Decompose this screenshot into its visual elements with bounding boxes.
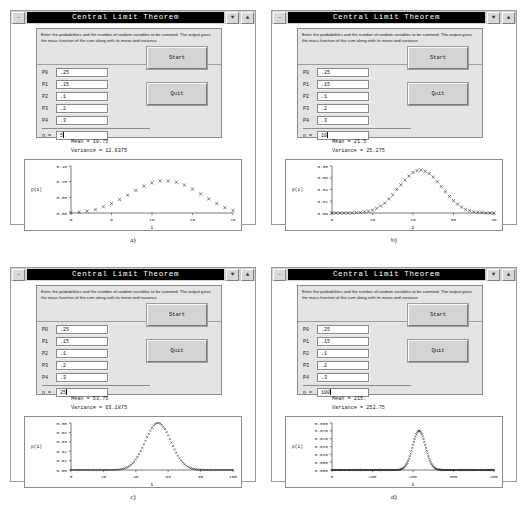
quit-button[interactable]: Quit bbox=[147, 340, 207, 362]
prob-label-p1: P1 bbox=[303, 339, 317, 345]
svg-text:p(i): p(i) bbox=[31, 444, 42, 449]
app-window: –Central Limit Theorem▼▲Enter the probab… bbox=[10, 267, 256, 482]
prob-row-p4: P4.3 bbox=[42, 372, 108, 383]
svg-text:0.15: 0.15 bbox=[56, 164, 67, 169]
prob-input-p2[interactable]: .1 bbox=[56, 92, 108, 101]
prob-row-p2: P2.1 bbox=[42, 348, 108, 359]
n-label: n = bbox=[303, 390, 317, 396]
prob-input-p4[interactable]: .3 bbox=[56, 373, 108, 382]
panel-caption-b: b) bbox=[271, 236, 517, 244]
window-client-area: Enter the probabilities and the number o… bbox=[272, 24, 516, 224]
window-client-area: Enter the probabilities and the number o… bbox=[11, 24, 255, 224]
prob-label-p1: P1 bbox=[42, 82, 56, 88]
svg-text:0.005: 0.005 bbox=[315, 460, 329, 465]
minimize-icon[interactable]: – bbox=[273, 269, 286, 281]
prob-input-p1[interactable]: .15 bbox=[317, 337, 369, 346]
svg-text:0.04: 0.04 bbox=[56, 430, 67, 435]
title-bar: –Central Limit Theorem▼▲ bbox=[11, 11, 255, 25]
n-separator bbox=[303, 385, 411, 386]
start-button[interactable]: Start bbox=[147, 304, 207, 326]
title-bar: –Central Limit Theorem▼▲ bbox=[272, 268, 516, 282]
window-client-area: Enter the probabilities and the number o… bbox=[272, 281, 516, 481]
prob-input-p1[interactable]: .15 bbox=[56, 80, 108, 89]
prob-input-p2[interactable]: .1 bbox=[56, 349, 108, 358]
title-bar-buttons: ▼▲ bbox=[486, 269, 516, 281]
prob-input-p1[interactable]: .15 bbox=[56, 337, 108, 346]
raise-window-icon[interactable]: ▲ bbox=[241, 269, 254, 281]
raise-window-icon[interactable]: ▲ bbox=[241, 12, 254, 24]
prob-input-p3[interactable]: .2 bbox=[317, 104, 369, 113]
svg-text:400: 400 bbox=[490, 474, 498, 479]
title-bar-buttons: ▼▲ bbox=[225, 269, 255, 281]
prob-input-p2[interactable]: .1 bbox=[317, 92, 369, 101]
minimize-icon[interactable]: – bbox=[273, 12, 286, 24]
n-separator bbox=[303, 128, 411, 129]
svg-text:0.06: 0.06 bbox=[317, 175, 328, 180]
n-label: n = bbox=[303, 133, 317, 139]
prob-label-p2: P2 bbox=[42, 351, 56, 357]
panel-b: –Central Limit Theorem▼▲Enter the probab… bbox=[271, 10, 517, 253]
prob-input-p0[interactable]: .25 bbox=[56, 68, 108, 77]
svg-text:0.00: 0.00 bbox=[56, 211, 67, 216]
minimize-icon[interactable]: – bbox=[12, 269, 25, 281]
raise-window-icon[interactable]: ▲ bbox=[502, 12, 515, 24]
prob-row-p1: P1.15 bbox=[42, 79, 108, 90]
prob-input-p0[interactable]: .25 bbox=[317, 325, 369, 334]
prob-label-p3: P3 bbox=[303, 106, 317, 112]
plot-canvas: 051015200.000.050.100.15ip(i) bbox=[25, 160, 241, 230]
quit-button[interactable]: Quit bbox=[408, 83, 468, 105]
window-title: Central Limit Theorem bbox=[27, 269, 224, 280]
svg-text:200: 200 bbox=[409, 474, 417, 479]
plot-area: 051015200.000.050.100.15ip(i) bbox=[24, 159, 242, 231]
start-button[interactable]: Start bbox=[147, 47, 207, 69]
prob-input-p2[interactable]: .1 bbox=[317, 349, 369, 358]
svg-text:20: 20 bbox=[410, 217, 416, 222]
quit-button[interactable]: Quit bbox=[147, 83, 207, 105]
prob-label-p0: P0 bbox=[42, 70, 56, 76]
lower-window-icon[interactable]: ▼ bbox=[487, 12, 500, 24]
prob-label-p3: P3 bbox=[42, 363, 56, 369]
prob-input-p3[interactable]: .2 bbox=[56, 361, 108, 370]
svg-text:p(i): p(i) bbox=[31, 187, 42, 192]
prob-input-p0[interactable]: .25 bbox=[317, 68, 369, 77]
prob-input-p4[interactable]: .3 bbox=[317, 373, 369, 382]
input-form: Enter the probabilities and the number o… bbox=[36, 28, 222, 138]
title-bar-buttons: ▼▲ bbox=[225, 12, 255, 24]
text-caret bbox=[330, 389, 331, 395]
prob-row-p3: P3.2 bbox=[303, 103, 369, 114]
prob-input-p3[interactable]: .2 bbox=[56, 104, 108, 113]
prob-input-p4[interactable]: .3 bbox=[317, 116, 369, 125]
start-button[interactable]: Start bbox=[408, 47, 468, 69]
raise-window-icon[interactable]: ▲ bbox=[502, 269, 515, 281]
svg-text:0.015: 0.015 bbox=[315, 444, 329, 449]
panel-c: –Central Limit Theorem▼▲Enter the probab… bbox=[10, 267, 256, 506]
prob-input-p3[interactable]: .2 bbox=[317, 361, 369, 370]
prob-label-p2: P2 bbox=[42, 94, 56, 100]
panel-caption-a: a) bbox=[10, 236, 256, 244]
quit-button[interactable]: Quit bbox=[408, 340, 468, 362]
minimize-icon[interactable]: – bbox=[12, 12, 25, 24]
plot-area: 0102030400.000.020.040.060.08ip(i) bbox=[285, 159, 503, 231]
lower-window-icon[interactable]: ▼ bbox=[487, 269, 500, 281]
prob-input-p4[interactable]: .3 bbox=[56, 116, 108, 125]
plot-canvas: 0102030400.000.020.040.060.08ip(i) bbox=[286, 160, 502, 230]
prob-input-p1[interactable]: .15 bbox=[317, 80, 369, 89]
prob-label-p4: P4 bbox=[42, 118, 56, 124]
svg-text:0: 0 bbox=[331, 474, 334, 479]
start-button[interactable]: Start bbox=[408, 304, 468, 326]
mean-readout: Mean = 10.75 bbox=[71, 139, 108, 145]
prob-row-p3: P3.2 bbox=[42, 360, 108, 371]
lower-window-icon[interactable]: ▼ bbox=[226, 269, 239, 281]
prob-row-p3: P3.2 bbox=[303, 360, 369, 371]
text-caret bbox=[63, 132, 64, 138]
svg-text:0.010: 0.010 bbox=[315, 452, 329, 457]
prob-row-p1: P1.15 bbox=[42, 336, 108, 347]
lower-window-icon[interactable]: ▼ bbox=[226, 12, 239, 24]
prob-label-p4: P4 bbox=[303, 118, 317, 124]
prob-input-p0[interactable]: .25 bbox=[56, 325, 108, 334]
variance-readout: Variance = 252.75 bbox=[332, 405, 385, 411]
svg-text:0.04: 0.04 bbox=[317, 187, 328, 192]
n-separator bbox=[42, 385, 150, 386]
svg-text:0.00: 0.00 bbox=[317, 211, 328, 216]
panel-caption-c: c) bbox=[10, 493, 256, 501]
